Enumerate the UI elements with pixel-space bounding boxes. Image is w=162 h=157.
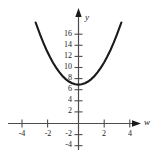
x-tick-label-neg4: -4 bbox=[14, 130, 30, 138]
x-tick-label-4: 4 bbox=[124, 130, 136, 138]
y-tick-label-16: 16 bbox=[58, 30, 72, 38]
x-axis-label: w bbox=[144, 118, 150, 127]
x-tick-label-2: 2 bbox=[98, 130, 110, 138]
y-tick-label-4: 4 bbox=[58, 96, 72, 104]
y-tick-label-14: 14 bbox=[58, 41, 72, 49]
y-tick-label-12: 12 bbox=[58, 52, 72, 60]
y-tick-label-2: 2 bbox=[58, 107, 72, 115]
y-tick-label-10: 10 bbox=[58, 63, 72, 71]
y-tick-label-neg4: -4 bbox=[56, 141, 72, 149]
y-axis-label: y bbox=[85, 13, 89, 22]
y-axis-arrow-icon bbox=[75, 8, 81, 17]
x-axis-arrow-icon bbox=[132, 120, 141, 126]
y-tick-label-6: 6 bbox=[58, 85, 72, 93]
graph-figure: 16 14 12 10 8 6 4 2 -2 -4 -4 -2 2 4 w y bbox=[0, 0, 162, 157]
y-tick-label-neg2: -2 bbox=[56, 130, 72, 138]
y-tick-label-8: 8 bbox=[58, 74, 72, 82]
x-tick-label-neg2: -2 bbox=[40, 130, 56, 138]
